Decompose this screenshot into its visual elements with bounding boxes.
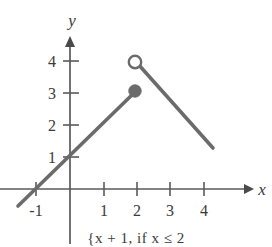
x-tick-label-2: 2 [133, 202, 141, 219]
y-axis-label: y [66, 11, 76, 30]
y-tick-label-1: 1 [48, 149, 56, 166]
open-point-marker [129, 56, 141, 68]
y-axis-arrow-icon [65, 36, 75, 47]
piecewise-formula-text: {x + 1, if x ≤ 2 [87, 230, 184, 246]
y-tick-label-4: 4 [48, 53, 56, 70]
x-tick-label--1: -1 [29, 202, 42, 219]
closed-point-marker [129, 85, 141, 97]
x-tick-label-4: 4 [200, 202, 208, 219]
x-axis-label: x [257, 180, 266, 199]
x-tick-label-3: 3 [166, 202, 174, 219]
x-axis-arrow-icon [244, 184, 254, 194]
piecewise-formula-caption: {x + 1, if x ≤ 2 [0, 230, 272, 247]
y-tick-label-3: 3 [48, 85, 56, 102]
segment-piece-2 [138, 64, 213, 148]
y-tick-label-2: 2 [48, 117, 56, 134]
x-tick-label-1: 1 [100, 202, 108, 219]
y-axis-ticks [63, 61, 79, 157]
